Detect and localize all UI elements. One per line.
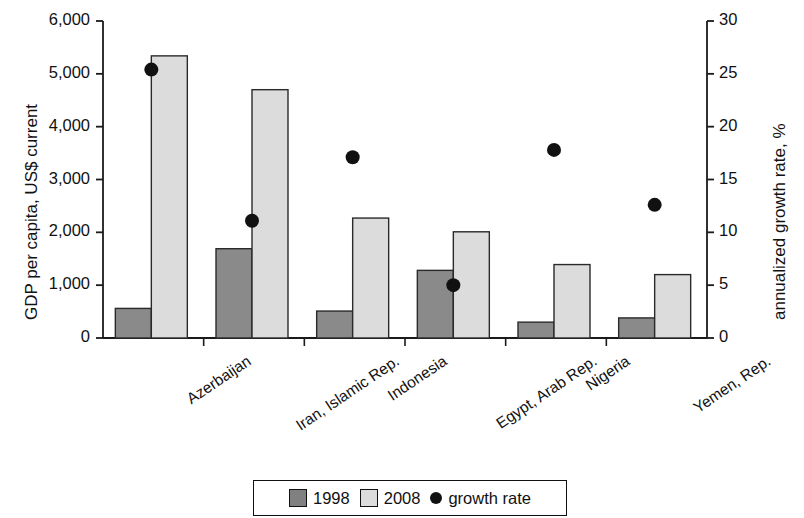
growth-rate-dot-5 xyxy=(648,198,662,212)
legend-swatch-1998 xyxy=(289,489,307,507)
y-axis-right-tick-5: 5 xyxy=(719,274,728,293)
legend-label-1998: 1998 xyxy=(313,489,350,508)
plot-area xyxy=(0,0,804,518)
legend-item-1998: 1998 xyxy=(289,489,350,508)
legend-item-growth-rate: growth rate xyxy=(430,489,531,508)
growth-rate-dot-3 xyxy=(446,278,460,292)
legend-label-2008: 2008 xyxy=(384,489,421,508)
y-axis-right-tick-15: 15 xyxy=(719,169,737,188)
y-axis-right-tick-25: 25 xyxy=(719,63,737,82)
y-axis-right-tick-10: 10 xyxy=(719,221,737,240)
bar-2008-0 xyxy=(151,56,187,338)
bar-1998-0 xyxy=(115,308,151,338)
bar-1998-3 xyxy=(417,270,453,338)
y-axis-left-tick-4000: 4,000 xyxy=(0,116,90,135)
bar-2008-1 xyxy=(252,90,288,338)
chart-legend: 1998 2008 growth rate xyxy=(253,480,567,516)
bar-1998-2 xyxy=(317,311,353,338)
bar-1998-5 xyxy=(619,318,655,338)
y-axis-right-tick-0: 0 xyxy=(719,327,728,346)
chart-figure: GDP per capita, US$ current annualized g… xyxy=(0,0,804,518)
growth-rate-dot-1 xyxy=(245,214,259,228)
legend-marker-growth-rate xyxy=(430,492,442,504)
y-axis-right-tick-30: 30 xyxy=(719,10,737,29)
y-axis-left-tick-1000: 1,000 xyxy=(0,274,90,293)
y-axis-left-tick-5000: 5,000 xyxy=(0,63,90,82)
bar-2008-4 xyxy=(554,265,590,338)
y-axis-left-tick-3000: 3,000 xyxy=(0,169,90,188)
bar-2008-2 xyxy=(353,218,389,338)
legend-swatch-2008 xyxy=(360,489,378,507)
y-axis-left-tick-2000: 2,000 xyxy=(0,221,90,240)
bar-2008-5 xyxy=(655,275,691,338)
bar-1998-1 xyxy=(216,249,252,338)
bar-1998-4 xyxy=(518,322,554,338)
growth-rate-dot-0 xyxy=(144,63,158,77)
growth-rate-dot-2 xyxy=(346,150,360,164)
y-axis-right-tick-20: 20 xyxy=(719,116,737,135)
y-axis-left-tick-6000: 6,000 xyxy=(0,10,90,29)
legend-label-growth-rate: growth rate xyxy=(448,489,531,508)
growth-rate-dot-4 xyxy=(547,143,561,157)
y-axis-left-tick-0: 0 xyxy=(0,327,90,346)
legend-item-2008: 2008 xyxy=(360,489,421,508)
